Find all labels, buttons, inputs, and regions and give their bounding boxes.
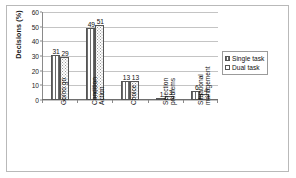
legend-label: Dual task <box>232 64 260 71</box>
x-category-label: Selectionproblems <box>162 78 177 105</box>
legend-label: Single task <box>232 55 264 62</box>
chart-legend: Single taskDual task <box>222 51 268 75</box>
bar: 13 <box>121 81 130 100</box>
x-tick-mark <box>183 100 184 103</box>
y-tick-label: 50 <box>32 23 39 30</box>
x-category-label: Choice <box>130 84 137 105</box>
legend-swatch <box>225 56 230 61</box>
x-tick-mark <box>42 100 43 103</box>
x-category-label: Situationalmanagement <box>197 67 212 106</box>
x-tick-mark <box>148 100 149 103</box>
y-axis-line <box>42 12 43 100</box>
x-category-label-line: Action <box>99 77 106 105</box>
x-category-label-line: management <box>204 67 211 106</box>
x-category-label-line: Go/no go <box>60 78 67 105</box>
y-tick-label: 40 <box>32 38 39 45</box>
y-tick-mark <box>40 41 42 42</box>
y-tick-label: 0 <box>35 97 39 104</box>
y-tick-mark <box>40 85 42 86</box>
x-tick-mark <box>77 100 78 103</box>
y-tick-label: 30 <box>32 53 39 60</box>
x-tick-mark <box>217 100 218 103</box>
x-category-label: ConditionAction <box>91 77 106 105</box>
bar-value-label: 13 <box>128 74 144 81</box>
y-tick-label: 60 <box>32 9 39 16</box>
y-tick-label: 10 <box>32 82 39 89</box>
legend-item: Dual task <box>225 63 264 72</box>
y-axis-title: Decisions (%) <box>14 0 23 75</box>
x-category-label-line: problems <box>169 78 176 105</box>
bar-value-label: 29 <box>57 50 73 57</box>
x-category-label-line: Situational <box>197 67 204 106</box>
bar: 31 <box>51 55 60 100</box>
y-tick-mark <box>40 26 42 27</box>
y-tick-mark <box>40 56 42 57</box>
y-tick-mark <box>40 70 42 71</box>
legend-swatch <box>225 65 230 70</box>
x-tick-mark <box>112 100 113 103</box>
y-tick-label: 20 <box>32 67 39 74</box>
x-category-label-line: Selection <box>162 78 169 105</box>
x-category-label-line: Choice <box>130 84 137 105</box>
legend-item: Single task <box>225 54 264 63</box>
x-category-label: Go/no go <box>60 78 67 105</box>
chart-figure: Decisions (%) 0102030405060 312949511313… <box>0 0 296 178</box>
bar-value-label: 51 <box>92 18 108 25</box>
y-tick-mark <box>40 12 42 13</box>
